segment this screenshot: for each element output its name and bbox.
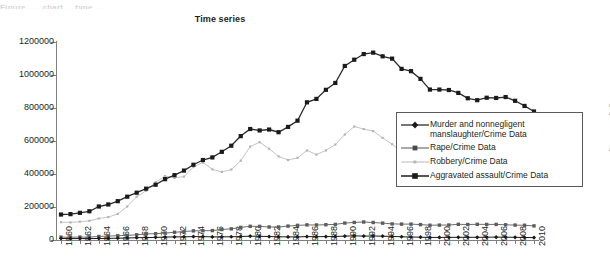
data-point (258, 234, 262, 238)
x-tick (439, 240, 440, 244)
data-point (457, 223, 460, 226)
data-point (116, 199, 120, 203)
data-point (229, 235, 233, 239)
x-tick (420, 240, 421, 244)
data-point (191, 163, 195, 167)
data-point (353, 221, 356, 224)
data-point (513, 99, 517, 103)
legend-label: Rape/Crime Data (430, 142, 496, 152)
data-point (276, 235, 280, 239)
data-point (324, 88, 328, 92)
data-point (182, 230, 185, 233)
data-point (418, 77, 422, 81)
data-point (220, 150, 224, 154)
y-tick-label: 1000000 (0, 70, 54, 79)
x-tick (534, 240, 535, 244)
data-point (456, 91, 460, 95)
legend-item[interactable]: Murder and nonnegligent manslaughter/Cri… (400, 119, 578, 139)
data-point (201, 229, 204, 232)
data-point (59, 212, 63, 216)
data-point (126, 205, 128, 207)
data-point (306, 149, 308, 151)
data-point (220, 228, 223, 231)
data-point (343, 221, 346, 224)
data-point (485, 235, 489, 239)
data-point (154, 235, 158, 239)
data-point (239, 226, 242, 229)
x-tick (496, 240, 497, 244)
y-tick-label: 1200000 (0, 37, 54, 46)
data-point (437, 87, 441, 91)
data-point (428, 224, 431, 227)
data-point (522, 104, 526, 108)
data-point (163, 177, 167, 181)
data-point (78, 211, 82, 215)
data-point (362, 234, 366, 238)
data-point (69, 221, 71, 223)
data-point (344, 133, 346, 135)
data-point (277, 155, 279, 157)
data-point (353, 125, 355, 127)
data-point (97, 204, 101, 208)
data-point (400, 222, 403, 225)
legend-item[interactable]: Aggravated assault/Crime Data (400, 170, 578, 181)
data-point (381, 221, 384, 224)
data-point (87, 209, 91, 213)
data-point (211, 229, 214, 232)
data-point (333, 81, 337, 85)
y-tick-label: 400000 (0, 169, 54, 178)
data-point (371, 221, 374, 224)
x-tick (212, 240, 213, 244)
data-point (305, 234, 309, 238)
data-point (372, 130, 374, 132)
data-point (286, 224, 289, 227)
data-point (296, 224, 299, 227)
legend-item[interactable]: Rape/Crime Data (400, 142, 578, 153)
data-point (210, 235, 214, 239)
legend-marker-square-dark-icon (400, 170, 430, 181)
data-point (259, 141, 261, 143)
data-point (466, 96, 470, 100)
data-point (125, 195, 129, 199)
legend-label: Aggravated assault/Crime Data (430, 170, 548, 180)
legend-item[interactable]: Robbery/Crime Data (400, 156, 578, 167)
data-point (362, 220, 365, 223)
data-point (314, 235, 318, 239)
data-point (201, 235, 205, 239)
legend-label: Murder and nonnegligent manslaughter/Cri… (430, 119, 578, 139)
x-tick (269, 240, 270, 244)
data-point (248, 234, 252, 238)
data-point (324, 223, 327, 226)
data-point (191, 234, 195, 238)
data-point (494, 96, 498, 100)
data-point (230, 168, 232, 170)
data-point (60, 221, 62, 223)
chart-legend: Murder and nonnegligent manslaughter/Cri… (396, 112, 583, 187)
data-point (182, 168, 186, 172)
x-tick (383, 240, 384, 244)
data-point (164, 175, 166, 177)
x-tick (477, 240, 478, 244)
data-point (352, 234, 356, 238)
data-point (183, 176, 185, 178)
data-point (192, 229, 195, 232)
y-tick-label: 800000 (0, 103, 54, 112)
data-point (504, 95, 508, 99)
data-point (409, 69, 413, 73)
data-point (390, 222, 393, 225)
data-point (476, 223, 479, 226)
data-point (343, 234, 347, 238)
data-point (267, 234, 271, 238)
x-tick (156, 240, 157, 244)
data-point (343, 64, 347, 68)
data-point (390, 57, 394, 61)
data-point (144, 235, 148, 239)
data-point (428, 87, 432, 91)
data-point (466, 235, 470, 239)
x-tick-label: 2010 (538, 226, 547, 246)
data-point (68, 212, 72, 216)
legend-label: Robbery/Crime Data (430, 156, 507, 166)
data-point (144, 187, 148, 191)
data-point (325, 149, 327, 151)
data-point (287, 159, 289, 161)
